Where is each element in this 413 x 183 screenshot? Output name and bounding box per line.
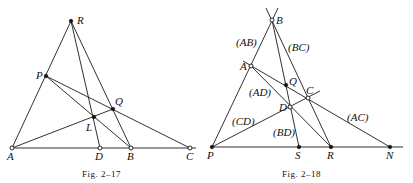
point-D <box>288 105 292 109</box>
point-C <box>306 96 310 100</box>
caption-fig-2-17: Fig. 2–17 <box>82 169 121 179</box>
line-label-BC: (BC) <box>288 41 310 54</box>
label-Q: Q <box>289 75 297 87</box>
label-P: P <box>35 69 43 81</box>
line-label-BD: (BD) <box>273 126 295 139</box>
label-Q: Q <box>115 95 123 107</box>
figure-2-18: B A Q C D P S R N (AB) (BC) (AD) (CD) (B… <box>206 8 403 179</box>
point-L <box>92 115 96 119</box>
line-AC <box>243 61 390 147</box>
line-label-AC: (AC) <box>347 111 369 124</box>
label-C: C <box>186 150 194 162</box>
point-A <box>249 64 253 68</box>
label-N: N <box>385 149 394 161</box>
point-Q <box>111 107 115 111</box>
label-P: P <box>206 149 214 161</box>
label-C: C <box>306 84 314 96</box>
label-A: A <box>239 60 247 72</box>
label-B: B <box>127 150 134 162</box>
line-RB <box>71 21 131 148</box>
label-R: R <box>326 149 334 161</box>
label-R: R <box>76 14 84 26</box>
point-B <box>270 18 274 22</box>
point-Q <box>284 83 288 87</box>
label-D: D <box>94 150 103 162</box>
caption-fig-2-18: Fig. 2–18 <box>282 169 321 179</box>
diagram-canvas: R P Q L A D B C Fig. 2–17 B A <box>0 0 413 183</box>
line-label-AB: (AB) <box>236 36 257 49</box>
label-D: D <box>278 101 287 113</box>
label-S: S <box>295 149 301 161</box>
label-B: B <box>276 14 283 26</box>
point-P <box>44 74 48 78</box>
line-label-AD: (AD) <box>249 86 271 99</box>
label-L: L <box>85 121 92 133</box>
label-A: A <box>6 150 14 162</box>
point-R <box>69 19 73 23</box>
line-label-CD: (CD) <box>232 115 255 128</box>
figure-2-17: R P Q L A D B C Fig. 2–17 <box>6 14 196 179</box>
